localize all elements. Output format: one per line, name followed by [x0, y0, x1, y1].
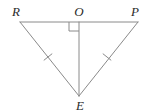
- segment-RE: [20, 22, 79, 96]
- right-angle-icon: [69, 22, 79, 31]
- congruence-tick-icon-RE: [44, 54, 52, 60]
- vertex-label-O: O: [74, 5, 83, 18]
- segment-PE: [79, 22, 138, 96]
- vertex-label-E: E: [76, 99, 84, 112]
- vertex-label-R: R: [12, 5, 20, 18]
- geometry-figure: R O P E: [0, 0, 149, 112]
- vertex-label-P: P: [131, 5, 139, 18]
